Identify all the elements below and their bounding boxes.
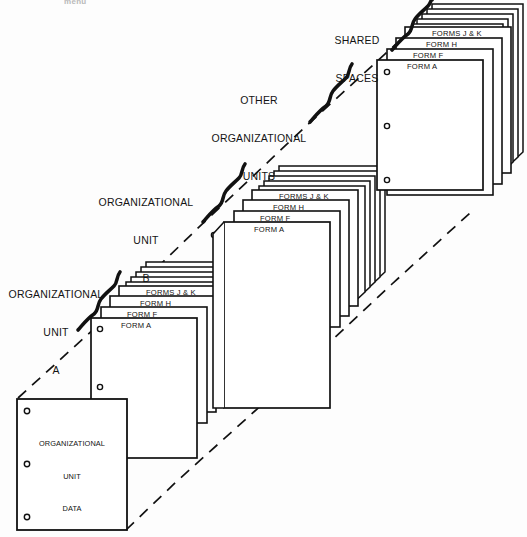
form-label-h-shared: FORM H xyxy=(426,40,457,49)
cut-header-text: menu xyxy=(64,0,140,6)
form-label-a-unit-a: FORM A xyxy=(121,321,151,330)
form-label-j-and-k-unit-a: FORMS J & K xyxy=(146,288,196,297)
form-label-j-and-k-unit-b: FORMS J & K xyxy=(279,192,329,201)
group-label-line: SPACES xyxy=(318,72,396,85)
form-label-a-unit-b: FORM A xyxy=(254,225,284,234)
group-label-shared-spaces: SHARED SPACES xyxy=(318,8,396,110)
front-page-label-line: DATA xyxy=(24,504,120,515)
front-page-label-organizational-unit-data: ORGANIZATIONAL UNIT DATA xyxy=(24,418,120,536)
group-label-line: ORGANIZATIONAL xyxy=(90,196,202,209)
form-label-f-unit-a: FORM F xyxy=(127,310,157,319)
form-label-f-shared: FORM F xyxy=(413,51,443,60)
front-page-label-line: UNIT xyxy=(24,472,120,483)
form-label-a-shared: FORM A xyxy=(407,62,437,71)
group-label-line: B xyxy=(90,272,202,285)
group-label-line: ORGANIZATIONAL xyxy=(203,132,315,145)
form-label-h-unit-b: FORM H xyxy=(273,203,304,212)
group-label-line: SHARED xyxy=(318,34,396,47)
form-label-f-unit-b: FORM F xyxy=(260,214,290,223)
group-label-line: A xyxy=(0,364,112,377)
group-label-other-organizational-units: OTHER ORGANIZATIONAL UNITS xyxy=(203,68,315,209)
group-label-line: OTHER xyxy=(203,94,315,107)
group-label-line: UNIT xyxy=(90,234,202,247)
front-page-label-line: ORGANIZATIONAL xyxy=(24,439,120,450)
form-label-h-unit-a: FORM H xyxy=(140,299,171,308)
group-label-line: UNITS xyxy=(203,170,315,183)
form-label-j-and-k-shared: FORMS J & K xyxy=(432,29,482,38)
group-label-line: UNIT xyxy=(0,326,112,339)
figure-canvas: menu ORGANIZATIONAL UNIT A ORGANIZATIONA… xyxy=(0,0,527,537)
